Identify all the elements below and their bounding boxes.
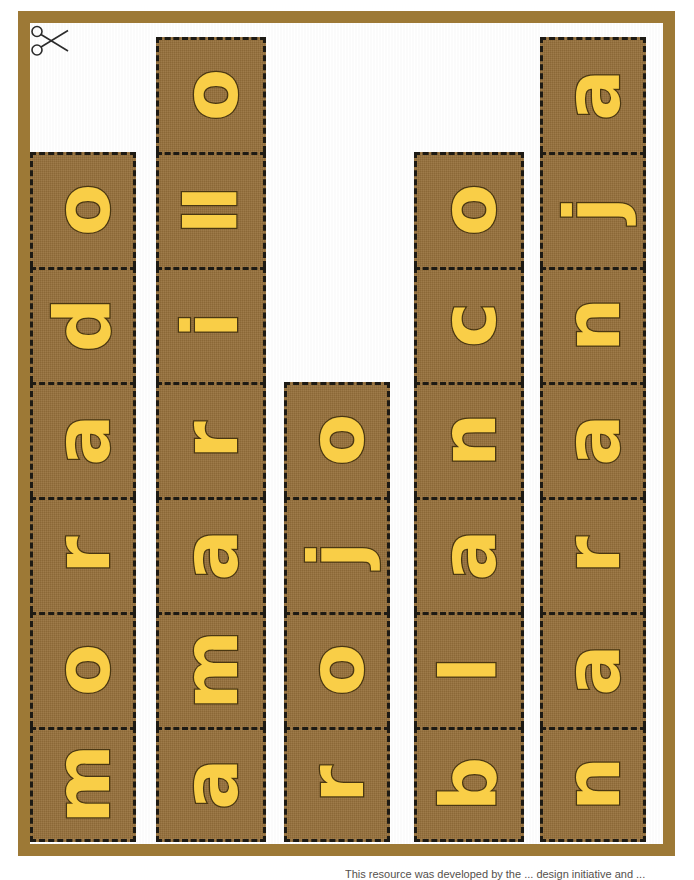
- letter-tile[interactable]: n: [540, 727, 646, 842]
- letter-glyph: i: [173, 314, 249, 338]
- letter-glyph: ll: [175, 188, 247, 233]
- letter-tile[interactable]: a: [540, 37, 646, 152]
- letter-tile[interactable]: j: [540, 152, 646, 267]
- strip-naranja[interactable]: ajnaran: [540, 37, 646, 842]
- letter-glyph: a: [173, 531, 249, 580]
- letter-glyph: o: [299, 416, 375, 466]
- letter-tile[interactable]: r: [30, 497, 136, 612]
- letter-glyph: a: [45, 416, 121, 465]
- letter-tile[interactable]: d: [30, 267, 136, 382]
- letter-tile[interactable]: a: [540, 612, 646, 727]
- letter-glyph: m: [173, 632, 249, 709]
- letter-glyph: o: [173, 71, 249, 121]
- letter-glyph: m: [45, 746, 121, 823]
- letter-glyph: l: [431, 659, 507, 683]
- letter-tile[interactable]: j: [284, 497, 390, 612]
- letter-tile[interactable]: m: [30, 727, 136, 842]
- letter-tile[interactable]: a: [30, 382, 136, 497]
- strip-amarillo[interactable]: ollirama: [156, 37, 266, 842]
- scissors-cut-icon: [30, 24, 72, 58]
- letter-tile[interactable]: a: [414, 497, 524, 612]
- letter-glyph: r: [173, 423, 249, 458]
- letter-tile[interactable]: n: [540, 267, 646, 382]
- letter-tile[interactable]: ll: [156, 152, 266, 267]
- letter-tile[interactable]: a: [156, 497, 266, 612]
- strip-blanco[interactable]: ocnalb: [414, 152, 524, 842]
- letter-glyph: o: [431, 186, 507, 236]
- letter-glyph: r: [45, 538, 121, 573]
- letter-tile[interactable]: r: [156, 382, 266, 497]
- letter-glyph: j: [555, 199, 631, 223]
- letter-glyph: c: [431, 304, 507, 347]
- letter-glyph: a: [431, 531, 507, 580]
- letter-glyph: a: [173, 760, 249, 809]
- letter-tile[interactable]: r: [540, 497, 646, 612]
- strip-rojo[interactable]: ojor: [284, 382, 390, 842]
- letter-glyph: n: [555, 758, 631, 810]
- letter-tile[interactable]: o: [156, 37, 266, 152]
- letter-tile[interactable]: a: [540, 382, 646, 497]
- letter-tile[interactable]: i: [156, 267, 266, 382]
- letter-tile[interactable]: l: [414, 612, 524, 727]
- letter-tile[interactable]: a: [156, 727, 266, 842]
- letter-glyph: d: [45, 300, 121, 352]
- letter-tile[interactable]: o: [284, 612, 390, 727]
- letter-tile[interactable]: o: [30, 152, 136, 267]
- letter-glyph: a: [555, 646, 631, 695]
- letter-tile[interactable]: m: [156, 612, 266, 727]
- strip-morado[interactable]: odarom: [30, 152, 136, 842]
- letter-tile[interactable]: c: [414, 267, 524, 382]
- letter-tile[interactable]: r: [284, 727, 390, 842]
- letter-tile[interactable]: o: [284, 382, 390, 497]
- letter-glyph: r: [555, 538, 631, 573]
- letter-glyph: a: [555, 416, 631, 465]
- worksheet-page: odaromolliramaojorocnalbajnaran This res…: [0, 0, 694, 880]
- letter-tile[interactable]: o: [414, 152, 524, 267]
- footer-caption: This resource was developed by the ... d…: [345, 868, 685, 880]
- letter-tile[interactable]: o: [30, 612, 136, 727]
- letter-glyph: a: [555, 71, 631, 120]
- letter-glyph: o: [299, 646, 375, 696]
- letter-glyph: n: [431, 415, 507, 467]
- letter-glyph: n: [555, 300, 631, 352]
- letter-glyph: o: [45, 186, 121, 236]
- letter-glyph: r: [299, 767, 375, 802]
- letter-tile[interactable]: n: [414, 382, 524, 497]
- letter-glyph: o: [45, 646, 121, 696]
- letter-glyph: b: [431, 758, 507, 810]
- letter-glyph: j: [299, 544, 375, 568]
- letter-tile[interactable]: b: [414, 727, 524, 842]
